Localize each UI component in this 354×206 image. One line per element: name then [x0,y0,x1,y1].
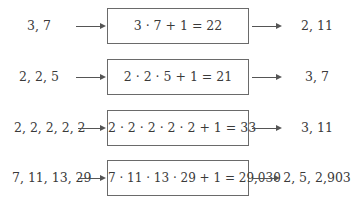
arrow-right-icon [76,76,106,78]
input-primes: 2, 2, 5 [8,59,70,95]
product-plus-one-box: 2 · 2 · 5 + 1 = 21 [107,59,249,95]
output-factors: 3, 7 [286,59,348,95]
arrow-right-icon [252,76,282,78]
diagram-row-2: 2, 2, 5 2 · 2 · 5 + 1 = 21 3, 7 [0,59,354,95]
arrow-right-icon [252,127,282,129]
product-plus-one-box: 3 · 7 + 1 = 22 [107,8,249,44]
input-primes: 7, 11, 13, 29 [12,160,78,196]
arrow-right-icon [252,177,280,179]
arrow-right-icon [78,177,106,179]
input-primes: 2, 2, 2, 2, 2 [14,110,76,146]
diagram-row-3: 2, 2, 2, 2, 2 2 · 2 · 2 · 2 · 2 + 1 = 33… [0,110,354,146]
arrow-right-icon [78,127,106,129]
diagram-row-4: 7, 11, 13, 29 7 · 11 · 13 · 29 + 1 = 29,… [0,160,354,196]
output-factors: 3, 11 [286,110,348,146]
arrow-right-icon [76,25,106,27]
product-plus-one-box: 7 · 11 · 13 · 29 + 1 = 29,030 [107,160,249,196]
arrow-right-icon [252,25,282,27]
output-factors: 2, 5, 2,903 [282,160,352,196]
diagram-row-1: 3, 7 3 · 7 + 1 = 22 2, 11 [0,8,354,44]
input-primes: 3, 7 [8,8,70,44]
product-plus-one-box: 2 · 2 · 2 · 2 · 2 + 1 = 33 [107,110,249,146]
output-factors: 2, 11 [286,8,348,44]
